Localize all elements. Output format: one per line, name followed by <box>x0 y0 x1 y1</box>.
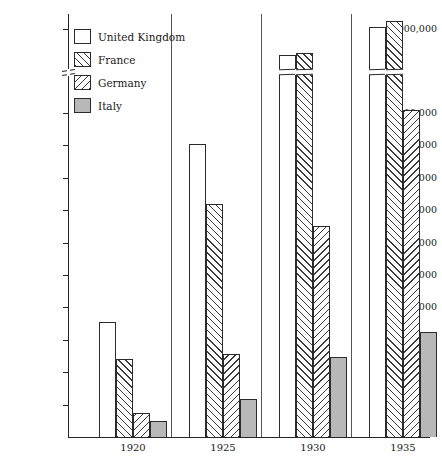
legend-swatch-france-icon <box>74 52 91 67</box>
chart-title <box>0 0 437 8</box>
bar-axis-break-band <box>385 69 404 75</box>
bar-1925-uk <box>189 144 206 437</box>
legend-item-germany: Germany <box>74 71 204 94</box>
bar-1930-uk <box>279 55 296 437</box>
legend-label-france: France <box>98 54 135 66</box>
legend-label-germany: Germany <box>98 77 147 89</box>
legend-swatch-germany-icon <box>74 75 91 90</box>
bar-1925-france <box>206 204 223 437</box>
legend-label-italy: Italy <box>98 100 122 112</box>
bar-1920-france <box>116 359 133 437</box>
bar-axis-break-band <box>295 69 314 75</box>
bar-1920-uk <box>99 322 116 437</box>
bar-1935-germany <box>403 110 420 437</box>
legend-label-united-kingdom: United Kingdom <box>98 31 185 43</box>
legend-swatch-united-kingdom-icon <box>74 29 91 44</box>
group-separator <box>261 14 262 437</box>
x-axis-line <box>68 437 430 438</box>
bar-1925-italy <box>240 399 257 437</box>
bar-1920-italy <box>150 421 167 437</box>
chart-legend: United Kingdom France Germany Italy <box>74 25 204 117</box>
x-axis-label-1935: 1935 <box>358 442 442 453</box>
x-axis-label-1925: 1925 <box>178 442 268 453</box>
bar-1935-france <box>386 21 403 437</box>
bar-group-1930 <box>279 14 347 437</box>
bar-group-1935 <box>369 14 437 437</box>
x-axis-label-1920: 1920 <box>88 442 178 453</box>
legend-item-france: France <box>74 48 204 71</box>
x-axis-label-1930: 1930 <box>268 442 358 453</box>
bar-1935-uk <box>369 27 386 437</box>
group-separator <box>351 14 352 437</box>
legend-item-united-kingdom: United Kingdom <box>74 25 204 48</box>
legend-swatch-italy-icon <box>74 98 91 113</box>
bar-1930-italy <box>330 357 347 437</box>
legend-item-italy: Italy <box>74 94 204 117</box>
bar-1930-germany <box>313 226 330 437</box>
bar-1930-france <box>296 53 313 437</box>
bar-1920-germany <box>133 413 150 437</box>
bar-1925-germany <box>223 354 240 437</box>
bar-1935-italy <box>420 332 437 437</box>
